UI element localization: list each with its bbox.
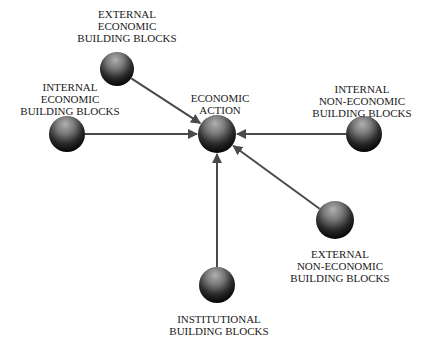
node-label-internal-economic-line-3: BUILDING BLOCKS <box>20 105 119 117</box>
building-blocks-diagram: ECONOMIC ACTION EXTERNALECONOMICBUILDING… <box>0 0 435 350</box>
node-label-internal-non-economic-line-3: BUILDING BLOCKS <box>312 107 411 119</box>
node-label-institutional-line-1: INSTITUTIONAL <box>177 313 261 325</box>
node-label-external-non-economic-line-1: EXTERNAL <box>311 248 369 260</box>
sphere-node-internal-non-economic <box>346 116 382 152</box>
sphere-node-external-non-economic <box>316 201 354 239</box>
sphere-node-economic-action <box>198 115 236 153</box>
node-label-external-non-economic-line-3: BUILDING BLOCKS <box>290 272 389 284</box>
node-label-institutional-line-2: BUILDING BLOCKS <box>169 325 268 337</box>
node-label-internal-non-economic-line-2: NON-ECONOMIC <box>319 95 405 107</box>
node-label-internal-non-economic-line-1: INTERNAL <box>335 83 390 95</box>
node-label-internal-economic-line-2: ECONOMIC <box>41 93 100 105</box>
node-label-external-non-economic-line-2: NON-ECONOMIC <box>297 260 383 272</box>
arrow-external-non-economic-to-economic-action <box>233 146 319 209</box>
sphere-node-internal-economic <box>49 116 85 152</box>
node-label-external-economic-line-1: EXTERNAL <box>98 8 156 20</box>
node-label-external-economic-line-3: BUILDING BLOCKS <box>77 32 176 44</box>
center-label-line-2: ACTION <box>199 104 241 116</box>
sphere-node-institutional <box>199 267 235 303</box>
node-label-external-economic-line-2: ECONOMIC <box>98 20 157 32</box>
node-label-internal-economic-line-1: INTERNAL <box>43 81 98 93</box>
sphere-node-external-economic <box>100 52 134 86</box>
center-label-line-1: ECONOMIC <box>191 92 250 104</box>
